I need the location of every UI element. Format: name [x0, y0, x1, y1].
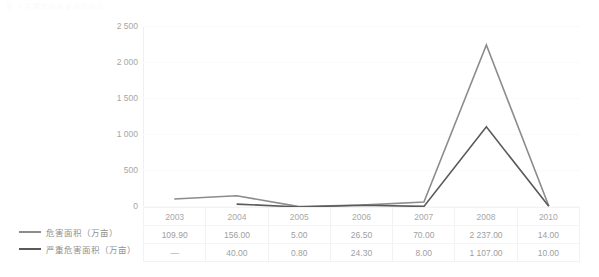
- y-axis-tick-labels: 2 500 2 000 1 500 1 000 500 0: [92, 26, 138, 207]
- table-cell: 2005: [268, 208, 330, 226]
- table-cell: 24.30: [330, 244, 392, 262]
- legend-item-severe-harm-area: 严重危害面积（万亩）: [19, 240, 141, 257]
- table-cell: 0.80: [268, 244, 330, 262]
- table-row-severe-harm-area: — 40.00 0.80 24.30 8.00 1 107.00 10.00: [144, 244, 580, 262]
- top-caption: 表 3 主要年份危害面积统计: [6, 1, 105, 11]
- line-harm-area: [174, 45, 549, 207]
- table-cell: 109.90: [144, 226, 206, 244]
- table-cell: 2004: [206, 208, 268, 226]
- plot-area: [143, 26, 580, 206]
- table-cell: 10.00: [517, 244, 579, 262]
- chart-data-table: 2003 2004 2005 2006 2007 2008 2010 109.9…: [143, 207, 580, 262]
- table-cell: 2003: [144, 208, 206, 226]
- table-cell: 156.00: [206, 226, 268, 244]
- table-cell: 70.00: [393, 226, 455, 244]
- table-cell: 2007: [393, 208, 455, 226]
- table-cell: 40.00: [206, 244, 268, 262]
- table-cell: 1 107.00: [455, 244, 517, 262]
- y-tick-2000: 2 000: [94, 58, 138, 67]
- series-lines: [143, 26, 580, 207]
- chart-figure: 表 3 主要年份危害面积统计 2 500 2 000 1 500 1 000 5…: [0, 0, 599, 277]
- table-cell: —: [144, 244, 206, 262]
- table-cell: 14.00: [517, 226, 579, 244]
- table-cell: 2008: [455, 208, 517, 226]
- y-tick-2500: 2 500: [94, 22, 138, 31]
- table-cell: 2 237.00: [455, 226, 517, 244]
- legend-swatch-icon: [19, 248, 41, 250]
- chart-legend: 危害面积（万亩） 严重危害面积（万亩）: [19, 223, 141, 257]
- table-row-harm-area: 109.90 156.00 5.00 26.50 70.00 2 237.00 …: [144, 226, 580, 244]
- table-cell: 8.00: [393, 244, 455, 262]
- table-cell: 2010: [517, 208, 579, 226]
- line-severe-harm-area: [237, 127, 549, 207]
- y-tick-1000: 1 000: [94, 130, 138, 139]
- table-cell: 2006: [330, 208, 392, 226]
- legend-label-harm-area: 危害面积（万亩）: [46, 226, 118, 238]
- legend-swatch-icon: [19, 231, 41, 233]
- legend-item-harm-area: 危害面积（万亩）: [19, 223, 141, 240]
- y-tick-1500: 1 500: [94, 94, 138, 103]
- y-tick-500: 500: [94, 166, 138, 175]
- table-row-years: 2003 2004 2005 2006 2007 2008 2010: [144, 208, 580, 226]
- table-cell: 5.00: [268, 226, 330, 244]
- legend-label-severe-harm-area: 严重危害面积（万亩）: [46, 243, 136, 255]
- y-tick-0: 0: [94, 202, 138, 211]
- table-cell: 26.50: [330, 226, 392, 244]
